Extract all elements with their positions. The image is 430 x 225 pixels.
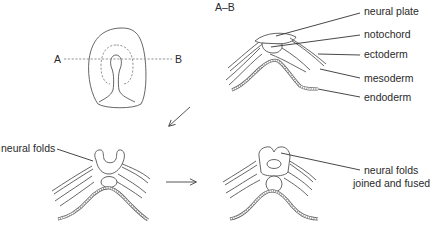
ectoderm-left-inner bbox=[54, 169, 93, 194]
ectoderm-left-inner bbox=[225, 165, 257, 185]
label-fused-line2: joined and fused bbox=[352, 177, 430, 189]
section-heading: A–B bbox=[215, 1, 235, 13]
notochord-shape bbox=[101, 177, 117, 188]
ectoderm-right-outer bbox=[288, 160, 316, 180]
label-fused-line1: neural folds bbox=[364, 164, 418, 176]
ectoderm-left-outer bbox=[52, 166, 92, 191]
label-mesoderm: mesoderm bbox=[364, 72, 414, 84]
endoderm-layer bbox=[230, 191, 318, 219]
leader-neural-folds bbox=[57, 149, 93, 161]
label-neural-folds: neural folds bbox=[1, 142, 55, 154]
ectoderm-right-inner bbox=[290, 164, 313, 182]
neural-tube-shape bbox=[259, 147, 290, 176]
neural-tube-section-panel: neural folds joined and fused bbox=[223, 147, 430, 219]
leader-ectoderm bbox=[318, 54, 360, 55]
ectoderm-left-outer bbox=[228, 40, 262, 68]
ectoderm-left-outer bbox=[223, 161, 256, 182]
primitive-streak-outline bbox=[99, 55, 135, 102]
neural-plate-section-panel: A–B neural plate notochord ectoderm bbox=[215, 1, 419, 103]
neurulation-diagram: A B A–B neural plate n bbox=[0, 0, 430, 225]
leader-neural-plate bbox=[276, 13, 360, 36]
ectoderm-right-inner bbox=[292, 41, 324, 66]
neural-folds-section-panel: neural folds bbox=[1, 142, 150, 220]
notochord-shape bbox=[262, 43, 282, 53]
mesoderm-left-1 bbox=[226, 48, 260, 80]
leader-endoderm bbox=[318, 89, 360, 97]
label-endoderm: endoderm bbox=[364, 91, 412, 103]
label-notochord: notochord bbox=[364, 28, 411, 40]
arrow-down-left bbox=[169, 107, 190, 126]
mesoderm-left-2 bbox=[230, 180, 260, 198]
embryo-outline bbox=[89, 28, 146, 108]
dorsal-view-panel: A B bbox=[54, 28, 182, 108]
neural-plate-shape bbox=[255, 33, 296, 44]
neural-folds-shape bbox=[95, 150, 125, 174]
label-ectoderm: ectoderm bbox=[364, 48, 408, 60]
mesoderm-right-1 bbox=[288, 172, 312, 190]
section-label-a: A bbox=[54, 53, 61, 65]
leader-fused-folds bbox=[281, 153, 360, 170]
mesoderm-right-2 bbox=[114, 180, 142, 198]
leader-mesoderm bbox=[320, 69, 360, 78]
label-neural-plate: neural plate bbox=[364, 5, 419, 17]
ectoderm-right-outer bbox=[120, 163, 150, 179]
mesoderm-right-2 bbox=[284, 178, 308, 196]
mesoderm-right-1 bbox=[118, 174, 146, 193]
neural-plate-boundary bbox=[101, 45, 133, 84]
section-label-b: B bbox=[175, 53, 182, 65]
